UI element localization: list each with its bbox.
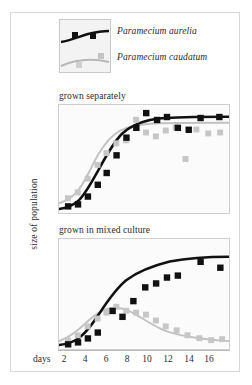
- legend-curves-icon: [60, 20, 110, 72]
- legend-gray-square-marker: [98, 53, 104, 59]
- x-axis-label: days: [33, 354, 50, 364]
- x-tick-6: 6: [98, 354, 114, 364]
- x-axis-line: [58, 350, 230, 351]
- aurelia-data-points-bottom: [65, 259, 224, 348]
- legend-gray-square-marker-2: [76, 62, 82, 68]
- x-tick-4: 4: [77, 354, 93, 364]
- legend-label-paramecium-caudatum: Paramecium caudatum: [117, 52, 207, 62]
- x-tick-2: 2: [56, 354, 72, 364]
- aurelia-fit-curve-bottom: [59, 257, 229, 345]
- legend-black-square-marker: [72, 32, 78, 38]
- x-tick-8: 8: [119, 354, 135, 364]
- panel-title-grown-separately: grown separately: [59, 91, 126, 101]
- legend-label-paramecium-aurelia: Paramecium aurelia: [117, 26, 197, 36]
- chart-grown-separately: [58, 104, 230, 214]
- legend-gray-curve: [61, 60, 109, 66]
- x-tick-14: 14: [181, 354, 197, 364]
- legend-black-curve: [61, 31, 109, 42]
- figure-frame: Paramecium aurelia Paramecium caudatum s…: [10, 12, 240, 372]
- legend-swatch-box: [59, 19, 111, 73]
- x-tick-16: 16: [201, 354, 217, 364]
- panel-title-grown-in-mixed-culture: grown in mixed culture: [59, 225, 150, 235]
- y-axis-label: size of population: [29, 144, 39, 284]
- chart-grown-in-mixed-culture: [58, 238, 230, 350]
- legend: Paramecium aurelia Paramecium caudatum: [59, 19, 239, 77]
- x-tick-10: 10: [139, 354, 155, 364]
- x-tick-12: 12: [160, 354, 176, 364]
- legend-black-square-marker-2: [90, 33, 96, 39]
